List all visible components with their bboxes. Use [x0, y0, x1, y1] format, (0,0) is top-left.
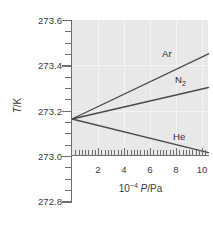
- y-tick-minor: [65, 133, 71, 134]
- x-tick-minor: [205, 150, 206, 155]
- y-tick-minor: [65, 88, 71, 89]
- y-axis: [71, 20, 72, 203]
- series-line-n2: [72, 88, 209, 120]
- series-label-n2-text: N: [175, 74, 182, 85]
- x-tick-label: 2: [86, 164, 110, 175]
- x-tick-label: 6: [138, 164, 162, 175]
- y-tick-minor: [65, 99, 71, 100]
- x-tick-major: [150, 148, 151, 155]
- x-tick-minor: [114, 150, 115, 155]
- x-axis-title-unit: /Pa: [147, 183, 162, 194]
- x-tick-minor: [153, 150, 154, 155]
- x-tick-minor: [108, 150, 109, 155]
- series-line-ar: [72, 54, 209, 119]
- x-tick-minor: [92, 150, 93, 155]
- x-tick-minor: [101, 150, 102, 155]
- x-tick-minor: [118, 150, 119, 155]
- series-label-he: He: [173, 131, 185, 142]
- x-tick-minor: [95, 150, 96, 155]
- x-tick-major: [176, 148, 177, 155]
- x-tick-minor: [147, 150, 148, 155]
- x-tick-minor: [166, 150, 167, 155]
- series-line-he: [72, 119, 209, 153]
- y-axis-title: T/K: [12, 86, 23, 126]
- chart-figure: 273.6 273.4 273.2 273.0 272.8 2 4 6 8 10…: [0, 0, 213, 225]
- x-tick-minor: [186, 150, 187, 155]
- x-tick-minor: [137, 150, 138, 155]
- y-tick-minor: [65, 190, 71, 191]
- x-tick-major: [202, 148, 203, 155]
- x-tick-minor: [121, 150, 122, 155]
- x-tick-major: [124, 148, 125, 155]
- y-tick-label: 273.0: [16, 151, 62, 162]
- y-axis-title-unit: /K: [12, 98, 23, 107]
- x-axis: [72, 155, 209, 156]
- x-tick-minor: [170, 150, 171, 155]
- x-tick-minor: [199, 150, 200, 155]
- y-tick-minor: [65, 43, 71, 44]
- x-tick-minor: [196, 150, 197, 155]
- x-tick-minor: [140, 150, 141, 155]
- x-tick-minor: [111, 150, 112, 155]
- series-label-n2: N2: [175, 74, 186, 87]
- y-tick-minor: [65, 145, 71, 146]
- x-tick-label: 10: [190, 164, 213, 175]
- x-tick-minor: [189, 150, 190, 155]
- y-tick-minor: [65, 31, 71, 32]
- x-tick-major: [98, 148, 99, 155]
- x-tick-minor: [173, 150, 174, 155]
- x-tick-minor: [88, 150, 89, 155]
- series-label-n2-subscript: 2: [182, 80, 186, 87]
- x-tick-minor: [85, 150, 86, 155]
- x-tick-minor: [134, 150, 135, 155]
- x-tick-minor: [192, 150, 193, 155]
- x-tick-label: 4: [112, 164, 136, 175]
- y-tick-major: [62, 201, 71, 202]
- y-tick-major: [62, 65, 71, 66]
- y-tick-major: [62, 156, 71, 157]
- x-tick-minor: [79, 150, 80, 155]
- x-axis-title-exponent: −4: [130, 182, 138, 189]
- y-tick-minor: [65, 54, 71, 55]
- x-tick-label: 8: [164, 164, 188, 175]
- y-tick-minor: [65, 167, 71, 168]
- x-tick-minor: [127, 150, 128, 155]
- x-tick-minor: [179, 150, 180, 155]
- x-tick-minor: [183, 150, 184, 155]
- x-tick-minor: [75, 150, 76, 155]
- x-axis-title: 10−4 P/Pa: [72, 182, 209, 194]
- y-tick-minor: [65, 77, 71, 78]
- y-tick-minor: [65, 179, 71, 180]
- series-label-ar: Ar: [162, 48, 172, 59]
- x-tick-minor: [144, 150, 145, 155]
- y-tick-minor: [65, 122, 71, 123]
- y-tick-major: [62, 20, 71, 21]
- y-tick-label: 273.4: [16, 60, 62, 71]
- x-tick-minor: [160, 150, 161, 155]
- x-tick-minor: [157, 150, 158, 155]
- x-tick-minor: [131, 150, 132, 155]
- y-tick-major: [62, 111, 71, 112]
- y-axis-title-variable: T: [12, 107, 23, 113]
- y-tick-label: 273.2: [16, 106, 62, 117]
- x-tick-minor: [105, 150, 106, 155]
- x-tick-minor: [82, 150, 83, 155]
- y-tick-label: 272.8: [16, 196, 62, 207]
- y-tick-label: 273.6: [16, 15, 62, 26]
- x-tick-minor: [163, 150, 164, 155]
- x-axis-title-coefficient: 10: [119, 183, 130, 194]
